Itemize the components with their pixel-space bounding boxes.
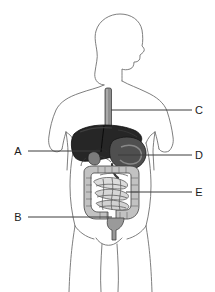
label-d: D (195, 149, 203, 161)
label-b: B (14, 211, 21, 223)
label-a: A (14, 145, 22, 157)
label-e: E (195, 186, 202, 198)
rectum-organ (107, 218, 124, 240)
digestive-system-figure: A B C D E (0, 0, 215, 292)
small-intestine-organ (94, 173, 129, 210)
label-c: C (195, 104, 203, 116)
